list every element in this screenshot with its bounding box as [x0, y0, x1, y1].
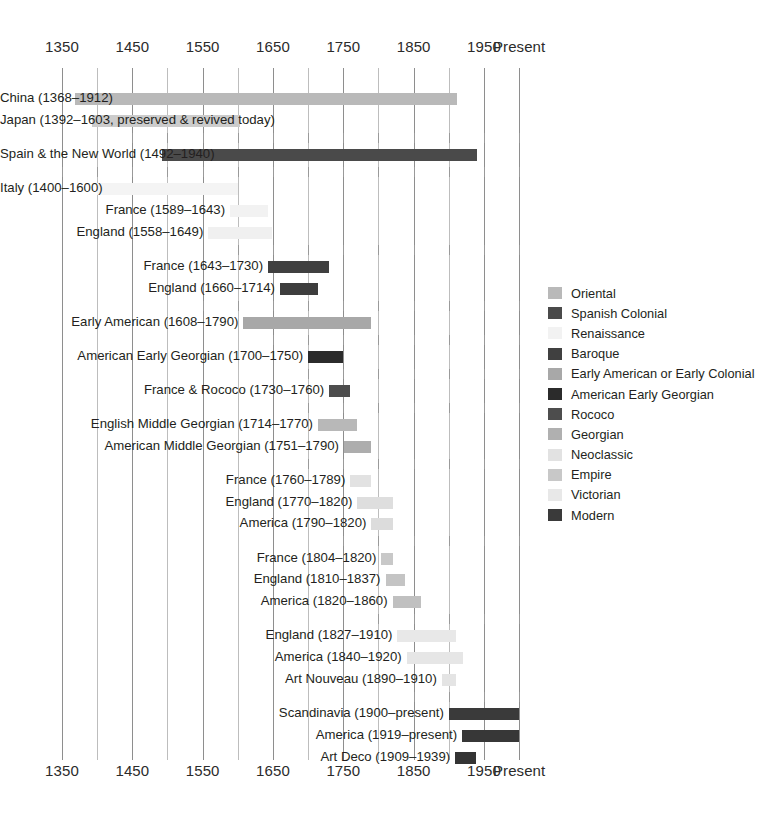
legend-swatch — [548, 509, 562, 521]
timeline-bar — [371, 518, 392, 530]
axis-tick-stub — [414, 245, 415, 255]
timeline-bar-label: America (1919–present) — [0, 727, 457, 743]
timeline-bar-label: England (1827–1910) — [0, 627, 392, 643]
axis-tick-stub — [238, 245, 239, 255]
legend-label: Spanish Colonial — [571, 306, 667, 321]
timeline-bar — [308, 351, 343, 363]
axis-tick-stub — [449, 692, 450, 702]
axis-tick-stub — [378, 459, 379, 469]
axis-tick-stub — [238, 133, 239, 143]
legend-label: Victorian — [571, 487, 621, 502]
timeline-row: China (1368–1912) — [0, 92, 773, 106]
axis-tick-stub — [449, 536, 450, 546]
axis-tick-stub — [343, 301, 344, 311]
timeline-bar-label: France (1760–1789) — [0, 472, 345, 488]
axis-tick-stub — [519, 133, 520, 143]
legend-item: Modern — [548, 505, 768, 525]
axis-tick-label: 1550 — [173, 38, 233, 55]
axis-tick-stub — [414, 614, 415, 624]
timeline-row: England (1558–1649) — [0, 226, 773, 240]
timeline-bar-label: Art Deco (1909–1939) — [0, 749, 450, 765]
axis-tick-stub — [449, 369, 450, 379]
timeline-bar-label: China (1368–1912) — [0, 90, 70, 106]
axis-tick-stub — [343, 335, 344, 345]
axis-tick-stub — [449, 459, 450, 469]
axis-tick-label: 1450 — [102, 38, 162, 55]
timeline-chart: 1350145015501650175018501950Present 1350… — [0, 0, 773, 834]
axis-tick-stub — [484, 335, 485, 345]
timeline-row: France (1643–1730) — [0, 260, 773, 274]
axis-tick-label: 1450 — [102, 762, 162, 779]
legend-swatch — [548, 327, 562, 339]
axis-tick-stub — [484, 403, 485, 413]
timeline-row: Scandinavia (1900–present) — [0, 707, 773, 721]
legend: OrientalSpanish ColonialRenaissanceBaroq… — [548, 283, 768, 525]
axis-tick-stub — [343, 536, 344, 546]
axis-tick-stub — [484, 369, 485, 379]
axis-tick-stub — [414, 301, 415, 311]
timeline-bar-label: Scandinavia (1900–present) — [0, 705, 444, 721]
legend-item: American Early Georgian — [548, 384, 768, 404]
axis-tick-stub — [132, 133, 133, 143]
timeline-bar-label: England (1810–1837) — [0, 571, 381, 587]
timeline-row: France (1804–1820) — [0, 552, 773, 566]
axis-tick-stub — [484, 459, 485, 469]
axis-tick-stub — [484, 133, 485, 143]
legend-swatch — [548, 348, 562, 360]
timeline-row: Japan (1392–1603, preserved & revived to… — [0, 114, 773, 128]
axis-tick-stub — [308, 459, 309, 469]
axis-tick-stub — [62, 167, 63, 177]
timeline-row: England (1827–1910) — [0, 629, 773, 643]
axis-tick-stub — [308, 133, 309, 143]
axis-tick-stub — [519, 369, 520, 379]
axis-tick-stub — [343, 245, 344, 255]
timeline-bar-label: American Middle Georgian (1751–1790) — [0, 438, 339, 454]
axis-tick-stub — [414, 692, 415, 702]
timeline-bar-label: Art Nouveau (1890–1910) — [0, 671, 437, 687]
axis-tick-stub — [132, 167, 133, 177]
timeline-bar — [344, 441, 371, 453]
axis-tick-stub — [484, 167, 485, 177]
axis-tick-stub — [378, 301, 379, 311]
axis-tick-stub — [484, 692, 485, 702]
timeline-bar-label: English Middle Georgian (1714–1770) — [0, 416, 313, 432]
axis-tick-stub — [203, 301, 204, 311]
timeline-bar-label: France (1804–1820) — [0, 550, 376, 566]
timeline-bar — [329, 385, 350, 397]
legend-swatch — [548, 368, 562, 380]
axis-tick-stub — [273, 245, 274, 255]
legend-label: Renaissance — [571, 326, 645, 341]
axis-tick-stub — [308, 167, 309, 177]
axis-tick-label: 1350 — [32, 762, 92, 779]
legend-item: Spanish Colonial — [548, 303, 768, 323]
timeline-bar — [397, 630, 455, 642]
axis-tick-stub — [378, 335, 379, 345]
axis-tick-stub — [519, 245, 520, 255]
timeline-bar — [75, 93, 458, 105]
timeline-row: Art Deco (1909–1939) — [0, 751, 773, 765]
axis-tick-stub — [484, 536, 485, 546]
legend-label: Baroque — [571, 346, 619, 361]
axis-tick-label: 1850 — [384, 38, 444, 55]
timeline-bar — [386, 574, 405, 586]
axis-tick-stub — [484, 245, 485, 255]
timeline-bar — [381, 553, 392, 565]
axis-tick-stub — [414, 459, 415, 469]
timeline-row: Art Nouveau (1890–1910) — [0, 673, 773, 687]
axis-tick-stub — [273, 167, 274, 177]
legend-swatch — [548, 449, 562, 461]
axis-tick-stub — [378, 403, 379, 413]
axis-tick-label: 1550 — [173, 762, 233, 779]
timeline-bar — [268, 261, 329, 273]
axis-tick-stub — [308, 335, 309, 345]
legend-label: American Early Georgian — [571, 387, 714, 402]
axis-tick-stub — [308, 301, 309, 311]
timeline-bar — [97, 183, 238, 195]
timeline-bar — [455, 752, 476, 764]
axis-tick-stub — [519, 536, 520, 546]
timeline-row: England (1810–1837) — [0, 573, 773, 587]
legend-swatch — [548, 408, 562, 420]
timeline-bar-label: Japan (1392–1603, preserved & revived to… — [0, 112, 87, 128]
legend-item: Oriental — [548, 283, 768, 303]
axis-tick-stub — [238, 167, 239, 177]
